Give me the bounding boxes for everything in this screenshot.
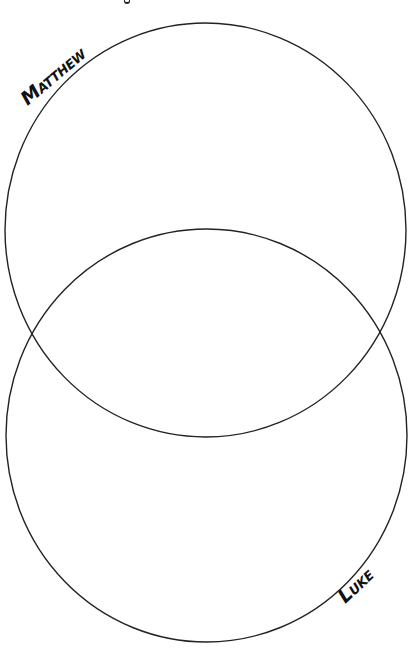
circle-matthew bbox=[5, 23, 406, 437]
venn-diagram: MATTHEW LUKE bbox=[0, 0, 410, 650]
venn-circles bbox=[0, 0, 410, 650]
